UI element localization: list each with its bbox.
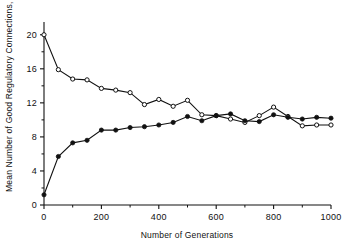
data-point-filled [157,123,161,127]
data-point-filled [315,115,319,119]
x-axis-tick-labels: 02004006008001000 [41,212,341,222]
data-point-open [171,104,175,108]
data-point-filled [56,154,60,158]
data-point-open [56,68,60,72]
data-point-filled [257,119,261,123]
y-axis-title-label: Mean Number of Good Regulatory Connectio… [4,0,14,192]
data-point-open [142,102,146,106]
x-tick-label: 200 [93,212,109,222]
data-point-filled [272,113,276,117]
data-point-filled [329,116,333,120]
data-series-markers [42,33,333,197]
data-point-filled [185,114,189,118]
x-tick-label: 400 [151,212,167,222]
data-point-open [157,97,161,101]
data-point-filled [243,119,247,123]
data-point-open [315,123,319,127]
x-tick-label: 0 [41,212,46,222]
chart-plot: 048121620 02004006008001000 Mean Number … [0,0,351,249]
data-point-open [228,117,232,121]
data-point-filled [286,115,290,119]
data-point-open [329,123,333,127]
x-tick-label: 600 [208,212,224,222]
data-point-open [42,33,46,37]
data-point-open [300,124,304,128]
data-point-open [185,98,189,102]
data-point-filled [171,120,175,124]
data-point-filled [128,125,132,129]
data-point-filled [42,193,46,197]
data-point-filled [99,128,103,132]
data-point-open [71,77,75,81]
data-point-open [85,78,89,82]
figure-container: 048121620 02004006008001000 Mean Number … [0,0,351,249]
data-point-filled [200,119,204,123]
data-point-filled [71,141,75,145]
data-point-filled [300,117,304,121]
data-point-filled [85,138,89,142]
x-tick-label: 1000 [320,212,341,222]
data-point-open [128,91,132,95]
y-tick-label: 16 [26,64,37,74]
data-point-open [257,114,261,118]
data-point-filled [228,112,232,116]
data-point-open [272,105,276,109]
data-point-open [200,113,204,117]
data-point-open [114,88,118,92]
x-axis-title-label: Number of Generations [141,230,234,240]
y-axis-title: Mean Number of Good Regulatory Connectio… [4,0,14,192]
data-point-open [99,86,103,90]
data-point-filled [142,125,146,129]
y-tick-label: 0 [32,200,37,210]
y-tick-label: 12 [26,98,37,108]
y-axis-tick-labels: 048121620 [26,30,37,210]
y-tick-label: 8 [32,132,37,142]
y-axis-title-text-part: Mean Number of Good Regulatory Connectio… [4,0,14,192]
data-point-filled [114,128,118,132]
y-tick-label: 20 [26,30,37,40]
data-point-filled [214,114,218,118]
series-line-filled-circle-series [44,114,331,195]
y-tick-label: 4 [32,166,37,176]
x-tick-label: 800 [266,212,282,222]
